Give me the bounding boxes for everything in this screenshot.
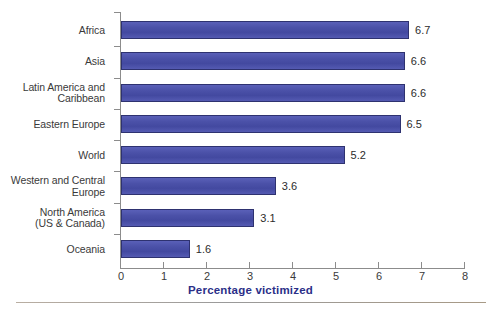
bar-row: 3.1 bbox=[121, 203, 471, 234]
bar-series: 6.7 6.6 6.6 6.5 5.2 3.6 bbox=[121, 15, 471, 265]
bottom-divider bbox=[16, 302, 486, 303]
y-axis-tick bbox=[114, 171, 120, 172]
category-label: Oceania bbox=[67, 244, 105, 256]
category-label: North America (US & Canada) bbox=[35, 207, 105, 230]
x-axis-tick bbox=[335, 262, 336, 268]
bar-row: 6.6 bbox=[121, 46, 471, 77]
bar-value-label: 6.5 bbox=[401, 115, 422, 133]
bar-asia[interactable] bbox=[121, 52, 405, 70]
x-axis-tick bbox=[378, 262, 379, 268]
bar-row: 5.2 bbox=[121, 140, 471, 171]
y-axis-tick bbox=[114, 234, 120, 235]
bar-row: 3.6 bbox=[121, 171, 471, 202]
x-axis-tick bbox=[163, 262, 164, 268]
x-axis-tick bbox=[292, 262, 293, 268]
bar-value-label: 3.1 bbox=[254, 209, 275, 227]
category-label-row: North America (US & Canada) bbox=[0, 203, 112, 234]
x-axis-tick bbox=[120, 262, 121, 268]
x-axis-tick-label: 8 bbox=[453, 270, 477, 282]
y-axis-top-cap bbox=[114, 12, 121, 13]
category-label: Eastern Europe bbox=[33, 119, 105, 131]
y-axis-tick bbox=[114, 203, 120, 204]
bar-value-label: 6.6 bbox=[405, 52, 426, 70]
x-axis-tick-label: 2 bbox=[195, 270, 219, 282]
bar-row: 6.7 bbox=[121, 15, 471, 46]
y-axis-tick bbox=[114, 109, 120, 110]
y-axis-tick bbox=[114, 46, 120, 47]
bar-western-and-central-europe[interactable] bbox=[121, 177, 276, 195]
bar-oceania[interactable] bbox=[121, 240, 190, 258]
x-axis-tick-label: 5 bbox=[324, 270, 348, 282]
x-axis-tick-label: 7 bbox=[410, 270, 434, 282]
category-label: Latin America and Caribbean bbox=[23, 82, 105, 105]
x-axis-tick-label: 3 bbox=[238, 270, 262, 282]
category-label: Asia bbox=[85, 56, 105, 68]
category-label: Africa bbox=[79, 25, 105, 37]
x-axis-line bbox=[120, 268, 465, 269]
x-axis-tick-label: 4 bbox=[281, 270, 305, 282]
category-label-row: Latin America and Caribbean bbox=[0, 78, 112, 109]
bar-eastern-europe[interactable] bbox=[121, 115, 401, 133]
bar-world[interactable] bbox=[121, 146, 345, 164]
x-axis-tick bbox=[206, 262, 207, 268]
bar-value-label: 1.6 bbox=[190, 240, 211, 258]
y-axis-tick bbox=[114, 140, 120, 141]
bar-north-america-us-and-canada[interactable] bbox=[121, 209, 254, 227]
x-axis-tick bbox=[249, 262, 250, 268]
category-label: Western and Central Europe bbox=[11, 175, 105, 198]
bar-value-label: 3.6 bbox=[276, 177, 297, 195]
bar-africa[interactable] bbox=[121, 21, 409, 39]
x-axis-tick-label: 1 bbox=[152, 270, 176, 282]
x-axis-title: Percentage victimized bbox=[0, 284, 501, 296]
x-axis-tick bbox=[421, 262, 422, 268]
bar-row: 6.6 bbox=[121, 78, 471, 109]
bar-value-label: 5.2 bbox=[345, 146, 366, 164]
bar-chart: Africa Asia Latin America and Caribbean … bbox=[0, 0, 501, 276]
category-label-row: Asia bbox=[0, 46, 112, 77]
x-axis-tick-label: 0 bbox=[109, 270, 133, 282]
category-label-row: Eastern Europe bbox=[0, 109, 112, 140]
x-axis-tick-label: 6 bbox=[367, 270, 391, 282]
category-label-row: Western and Central Europe bbox=[0, 171, 112, 202]
category-label-row: Africa bbox=[0, 15, 112, 46]
x-axis-end-cap bbox=[464, 262, 465, 269]
category-axis-labels: Africa Asia Latin America and Caribbean … bbox=[0, 15, 112, 265]
bar-row: 1.6 bbox=[121, 234, 471, 265]
y-axis-tick bbox=[114, 78, 120, 79]
bar-latin-america-and-caribbean[interactable] bbox=[121, 84, 405, 102]
chart-page: Africa Asia Latin America and Caribbean … bbox=[0, 0, 501, 313]
bar-value-label: 6.6 bbox=[405, 84, 426, 102]
category-label-row: World bbox=[0, 140, 112, 171]
bar-row: 6.5 bbox=[121, 109, 471, 140]
bar-value-label: 6.7 bbox=[409, 21, 430, 39]
category-label: World bbox=[78, 150, 105, 162]
category-label-row: Oceania bbox=[0, 234, 112, 265]
